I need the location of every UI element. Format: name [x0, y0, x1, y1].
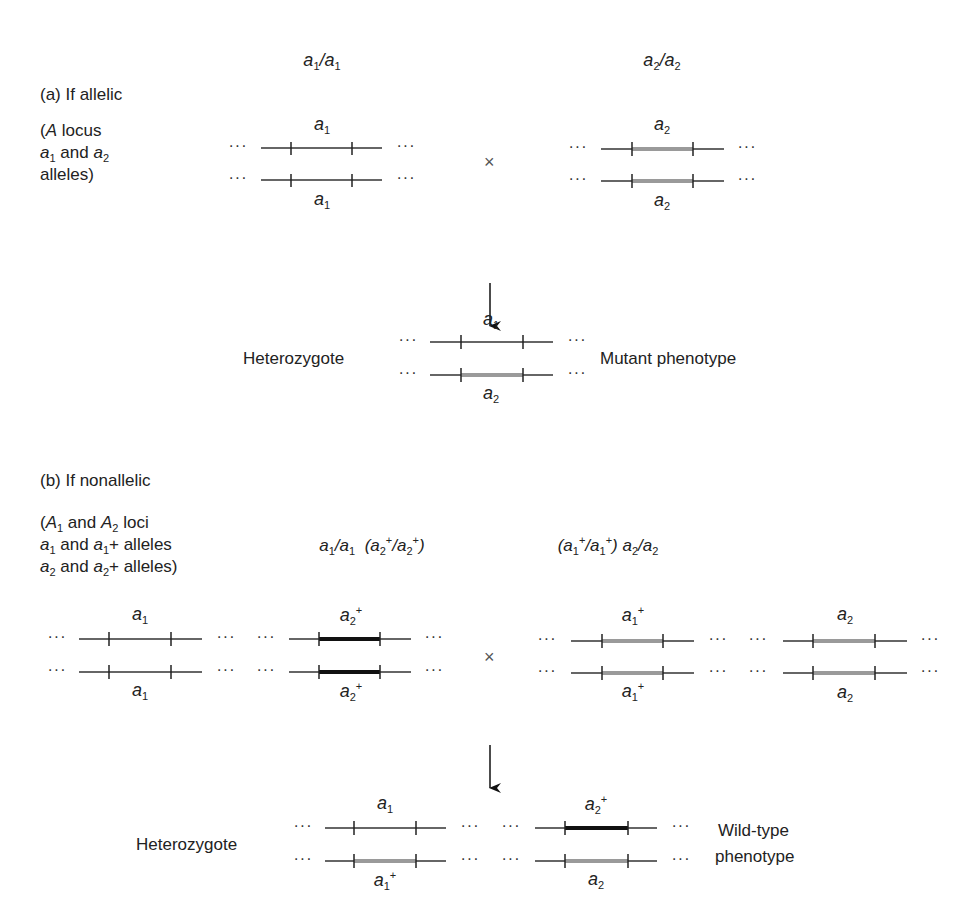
- ellipsis: ···: [425, 661, 444, 679]
- chromosome-a-off-bottom: [430, 368, 553, 382]
- part-a-phenotype: Mutant phenotype: [600, 348, 736, 370]
- chromosome-b-p2-l2-top: [783, 634, 907, 648]
- allele-label: a1: [132, 604, 148, 626]
- ellipsis: ···: [709, 630, 728, 648]
- chromosome-b-p2-l2-bottom: [783, 666, 907, 680]
- ellipsis: ···: [257, 661, 276, 679]
- chromosome-a-p2-top: [601, 142, 724, 156]
- allele-label: a2+: [340, 604, 363, 627]
- allele-label: a2+: [340, 680, 363, 703]
- ellipsis: ···: [294, 850, 313, 868]
- ellipsis: ···: [749, 662, 768, 680]
- ellipsis: ···: [568, 364, 587, 382]
- part-a-legend-line3: alleles): [40, 164, 94, 186]
- chromosome-b-p1-l1-top: [79, 632, 202, 646]
- allele-label: a1: [314, 189, 330, 211]
- ellipsis: ···: [502, 850, 521, 868]
- allele-label: a2: [654, 114, 670, 136]
- chromosome-a-p2-bottom: [601, 174, 724, 188]
- ellipsis: ···: [672, 850, 691, 868]
- ellipsis: ···: [217, 628, 236, 646]
- cross-symbol: ×: [484, 647, 495, 668]
- ellipsis: ···: [48, 628, 67, 646]
- ellipsis: ···: [229, 137, 248, 155]
- ellipsis: ···: [738, 170, 757, 188]
- part-b-offspring-label: Heterozygote: [136, 834, 237, 856]
- ellipsis: ···: [502, 817, 521, 835]
- chromosome-b-p2-l1-bottom: [571, 666, 694, 680]
- allele-label: a2: [588, 869, 604, 891]
- ellipsis: ···: [229, 169, 248, 187]
- part-a-offspring-label: Heterozygote: [243, 348, 344, 370]
- diagram-graphics: [0, 0, 979, 918]
- chromosome-b-p1-l1-bottom: [79, 665, 202, 679]
- part-b-phenotype-line1: Wild-type: [718, 820, 789, 842]
- ellipsis: ···: [257, 628, 276, 646]
- allele-label: a2+: [585, 793, 608, 816]
- ellipsis: ···: [569, 138, 588, 156]
- ellipsis: ···: [569, 170, 588, 188]
- ellipsis: ···: [397, 137, 416, 155]
- part-a-parent2-genotype: a2/a2: [643, 50, 680, 72]
- ellipsis: ···: [921, 662, 940, 680]
- allele-label: a1: [377, 793, 393, 815]
- ellipsis: ···: [399, 331, 418, 349]
- ellipsis: ···: [461, 817, 480, 835]
- cross-symbol: ×: [484, 152, 495, 173]
- ellipsis: ···: [738, 138, 757, 156]
- ellipsis: ···: [538, 630, 557, 648]
- ellipsis: ···: [672, 817, 691, 835]
- part-a-parent1-genotype: a1/a1: [303, 50, 340, 72]
- ellipsis: ···: [425, 628, 444, 646]
- allele-label: a1+: [622, 604, 645, 627]
- part-b-legend-line3: a2 and a2+ alleles): [40, 556, 178, 583]
- part-a-title: (a) If allelic: [40, 84, 122, 106]
- ellipsis: ···: [538, 662, 557, 680]
- allele-label: a2: [837, 682, 853, 704]
- part-b-parent2-genotype: (a1+/a1+) a2/a2: [558, 534, 659, 557]
- ellipsis: ···: [749, 630, 768, 648]
- part-b-phenotype-line2: phenotype: [715, 846, 794, 868]
- allele-label: a1: [314, 114, 330, 136]
- part-b-parent1-genotype: a1/a1 (a2+/a2+): [319, 534, 424, 557]
- ellipsis: ···: [461, 850, 480, 868]
- ellipsis: ···: [399, 364, 418, 382]
- ellipsis: ···: [568, 331, 587, 349]
- chromosome-b-off-l2-top: [535, 821, 657, 835]
- ellipsis: ···: [921, 630, 940, 648]
- allele-label: a1: [132, 680, 148, 702]
- ellipsis: ···: [217, 661, 236, 679]
- part-a-legend-line1: (A locus: [40, 120, 101, 142]
- ellipsis: ···: [294, 817, 313, 835]
- chromosome-b-p1-l2-bottom: [289, 665, 411, 679]
- chromosome-b-off-l2-bottom: [535, 854, 657, 868]
- part-b-title: (b) If nonallelic: [40, 470, 151, 492]
- allele-label: a1+: [622, 680, 645, 703]
- ellipsis: ···: [397, 169, 416, 187]
- chromosome-b-off-l1-bottom: [325, 854, 446, 868]
- chromosome-a-off-top: [430, 335, 553, 349]
- allele-label: a2: [483, 383, 499, 405]
- allele-label: a2: [654, 190, 670, 212]
- chromosome-a-p1-bottom: [261, 174, 382, 187]
- chromosome-a-p1-top: [261, 142, 382, 155]
- allele-label: a2: [837, 604, 853, 626]
- allele-label: a1+: [374, 869, 397, 892]
- chromosome-b-off-l1-top: [325, 821, 446, 835]
- ellipsis: ···: [48, 661, 67, 679]
- chromosome-b-p2-l1-top: [571, 634, 694, 648]
- ellipsis: ···: [709, 662, 728, 680]
- allele-label: a1: [483, 309, 499, 331]
- chromosome-b-p1-l2-top: [289, 632, 411, 646]
